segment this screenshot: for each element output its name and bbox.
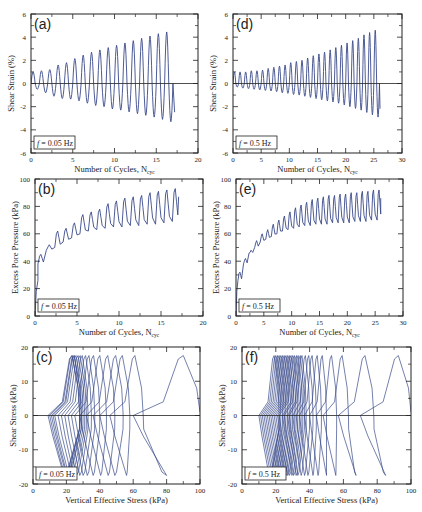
frequency-label: f = 0.05 Hz <box>37 139 74 148</box>
chart-panel-c: 020406080100-20-1001020Vertical Effectiv… <box>8 344 206 506</box>
y-axis-label: Shear Strain (%) <box>208 55 218 112</box>
data-line <box>31 32 175 122</box>
x-tick-label: 15 <box>316 319 324 327</box>
y-tick-label: 80 <box>224 203 232 211</box>
panel-label: (b) <box>38 181 55 197</box>
plot-frame <box>35 179 203 316</box>
x-axis-label: Number of Cycles, Ncyc <box>279 327 360 338</box>
chart-panel-f: 020406080100-20-1001020Vertical Effectiv… <box>217 344 417 506</box>
y-tick-label: 10 <box>21 378 29 386</box>
frequency-label: f = 0.05 Hz <box>39 470 76 479</box>
x-tick-label: 10 <box>288 319 296 327</box>
y-tick-label: 6 <box>23 11 27 19</box>
x-tick-label: 100 <box>195 487 206 495</box>
y-tick-label: 40 <box>23 258 31 266</box>
y-tick-label: 20 <box>23 285 31 293</box>
x-tick-label: 0 <box>231 156 235 164</box>
y-tick-label: 40 <box>224 258 232 266</box>
x-tick-label: 10 <box>116 319 124 327</box>
x-tick-label: 20 <box>63 487 71 495</box>
frequency-label: f = 0.5 Hz <box>239 139 272 148</box>
x-tick-label: 5 <box>262 319 266 327</box>
x-tick-label: 30 <box>400 319 408 327</box>
y-tick-label: 0 <box>234 412 238 420</box>
x-tick-label: 0 <box>31 487 35 495</box>
frequency-legend: f = 0.5 Hz <box>239 299 280 312</box>
y-axis-label: Excess Pore Pressure (kPa) <box>10 201 20 294</box>
chart-panel-e: 051015202530020406080100Number of Cycles… <box>211 176 407 339</box>
frequency-label: f = 0.5 Hz <box>242 302 275 311</box>
figure: 05101520-6-4-20246Number of Cycles, Ncyc… <box>0 0 422 512</box>
panel-label: (a) <box>34 16 51 32</box>
x-tick-label: 0 <box>240 487 244 495</box>
y-tick-label: 20 <box>230 344 238 352</box>
x-tick-label: 20 <box>200 319 208 327</box>
y-tick-label: -10 <box>228 446 238 454</box>
x-tick-label: 10 <box>111 156 119 164</box>
y-tick-label: 4 <box>225 34 229 42</box>
panel-label: (e) <box>239 181 256 197</box>
x-axis-label: Number of Cycles, Ncyc <box>277 164 358 175</box>
y-tick-label: -6 <box>20 150 26 158</box>
x-tick-label: 15 <box>153 156 161 164</box>
y-tick-label: 6 <box>225 11 229 19</box>
data-line <box>236 190 381 316</box>
y-tick-label: 80 <box>23 203 31 211</box>
frequency-legend: f = 0.5 Hz <box>245 467 286 480</box>
x-tick-label: 80 <box>374 487 382 495</box>
data-line <box>233 30 380 117</box>
y-axis-label: Shear Strain (%) <box>6 55 16 112</box>
x-axis-label: Vertical Effective Stress (kPa) <box>275 495 378 505</box>
frequency-legend: f = 0.05 Hz <box>36 467 77 480</box>
x-tick-label: 10 <box>286 156 294 164</box>
y-tick-label: -20 <box>228 481 238 489</box>
x-tick-label: 100 <box>406 487 417 495</box>
frequency-label: f = 0.5 Hz <box>248 470 281 479</box>
x-tick-label: 5 <box>75 319 79 327</box>
x-axis-label: Vertical Effective Stress (kPa) <box>65 495 168 505</box>
x-axis-label: Number of Cycles, Ncyc <box>79 327 160 338</box>
y-tick-label: 20 <box>21 344 29 352</box>
y-tick-label: 4 <box>23 34 27 42</box>
x-tick-label: 20 <box>342 156 350 164</box>
y-tick-label: -20 <box>19 481 29 489</box>
panel-label: (c) <box>36 349 52 365</box>
y-tick-label: 60 <box>224 230 232 238</box>
x-tick-label: 30 <box>399 156 407 164</box>
y-tick-label: -4 <box>222 126 228 134</box>
y-tick-label: 10 <box>230 378 238 386</box>
x-tick-label: 0 <box>33 319 37 327</box>
x-tick-label: 40 <box>96 487 104 495</box>
y-tick-label: 2 <box>23 57 27 65</box>
y-axis-label: Shear Stress (kPa) <box>217 384 227 446</box>
frequency-legend: f = 0.05 Hz <box>34 136 75 149</box>
chart-panel-a: 05101520-6-4-20246Number of Cycles, Ncyc… <box>6 11 202 176</box>
chart-panel-d: 051015202530-6-4-20246Number of Cycles, … <box>208 11 406 176</box>
x-tick-label: 20 <box>195 156 203 164</box>
y-tick-label: 0 <box>228 313 232 321</box>
x-tick-label: 0 <box>234 319 238 327</box>
x-tick-label: 20 <box>272 487 280 495</box>
x-tick-label: 40 <box>306 487 314 495</box>
x-tick-label: 0 <box>29 156 33 164</box>
data-line <box>35 189 179 316</box>
frequency-legend: f = 0.05 Hz <box>38 299 79 312</box>
y-tick-label: 60 <box>23 230 31 238</box>
x-tick-label: 60 <box>130 487 138 495</box>
x-tick-label: 5 <box>71 156 75 164</box>
y-tick-label: 0 <box>25 412 29 420</box>
panel-label: (f) <box>245 349 258 365</box>
x-axis-label: Number of Cycles, Ncyc <box>74 164 155 175</box>
x-tick-label: 5 <box>259 156 263 164</box>
x-tick-label: 15 <box>314 156 322 164</box>
x-tick-label: 80 <box>163 487 171 495</box>
y-tick-label: -4 <box>20 126 26 134</box>
figure-canvas: 05101520-6-4-20246Number of Cycles, Ncyc… <box>0 0 422 512</box>
y-tick-label: 100 <box>20 176 31 184</box>
frequency-legend: f = 0.5 Hz <box>236 136 277 149</box>
y-axis-label: Excess Pore Pressure (kPa) <box>211 201 221 294</box>
y-tick-label: 0 <box>27 313 31 321</box>
chart-panel-b: 05101520020406080100Number of Cycles, Nc… <box>10 176 207 339</box>
frequency-label: f = 0.05 Hz <box>41 302 78 311</box>
y-tick-label: -2 <box>222 103 228 111</box>
